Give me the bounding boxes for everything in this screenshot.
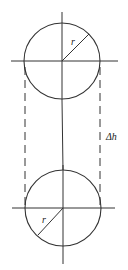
- delta-h-label: Δh: [105, 131, 117, 142]
- circle-offset-diagram: r r Δh: [0, 0, 128, 270]
- top-circle-group: [11, 12, 118, 100]
- center-connecting-line: [62, 100, 63, 170]
- bottom-radius-label: r: [42, 214, 46, 225]
- top-radius-label: r: [71, 36, 75, 47]
- top-radius-line: [62, 34, 89, 61]
- bottom-circle-group: [12, 165, 115, 264]
